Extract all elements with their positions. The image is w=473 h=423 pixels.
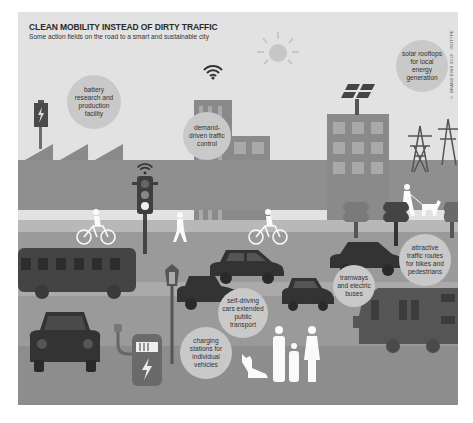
- charging-station-icon: [110, 324, 172, 386]
- car-icon: [28, 310, 102, 374]
- car-icon: [280, 278, 336, 314]
- power-pylon-icon: [406, 124, 434, 174]
- credit-text: © BRAND EINS 2018 · ISOTYPE: [449, 30, 454, 100]
- wifi-icon: [136, 162, 154, 176]
- wifi-icon: [202, 64, 224, 80]
- pedestrian-icon: [171, 212, 189, 244]
- battery-icon: [34, 100, 48, 128]
- family-icon: [270, 326, 324, 382]
- cyclist-icon: [247, 208, 289, 246]
- bubble-battery: battery research and production facility: [67, 75, 121, 129]
- bubble-demand: demand-driven traffic control: [183, 112, 231, 160]
- solar-panel-icon: [338, 82, 388, 116]
- bubble-routes: attractive traffic routes for bikes and …: [399, 234, 451, 286]
- traffic-light-icon: [132, 176, 158, 254]
- bubble-solar: solar rooftops for local energy generati…: [396, 40, 448, 92]
- tree-icon: [340, 198, 372, 238]
- power-pylon-icon: [438, 117, 458, 167]
- tree-icon: [380, 198, 412, 246]
- infographic-subtitle: Some action fields on the road to a smar…: [29, 33, 209, 40]
- sun-icon: [253, 30, 303, 74]
- dog-icon: [238, 350, 270, 378]
- infographic-panel: CLEAN MOBILITY INSTEAD OF DIRTY TRAFFIC …: [18, 12, 458, 405]
- bubble-tram: tramways and electric buses: [333, 265, 375, 307]
- infographic-title: CLEAN MOBILITY INSTEAD OF DIRTY TRAFFIC: [29, 22, 217, 32]
- cyclist-icon: [75, 208, 117, 246]
- bus-icon: [18, 248, 138, 302]
- bubble-charging: charging stations for individual vehicle…: [180, 327, 232, 379]
- bubble-selfdriving: self-driving cars extended public transp…: [218, 288, 268, 338]
- tree-icon: [442, 198, 458, 238]
